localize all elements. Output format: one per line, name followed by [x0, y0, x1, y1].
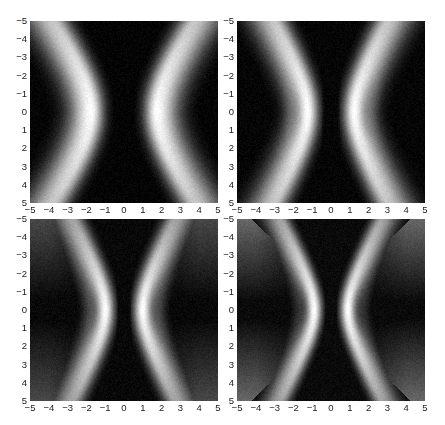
y-tick-label: −2	[7, 269, 27, 279]
x-tick-label: −5	[22, 403, 38, 413]
x-tick-label: −3	[267, 403, 283, 413]
x-tick-label: 5	[417, 403, 433, 413]
y-tick-label: 0	[7, 107, 27, 117]
x-tick-label: −2	[285, 403, 301, 413]
y-tick-label: −4	[7, 232, 27, 242]
y-tick-label: 3	[214, 162, 234, 172]
x-tick-label: −2	[285, 205, 301, 215]
y-tick-label: 1	[7, 323, 27, 333]
y-tick-label: −1	[214, 287, 234, 297]
x-tick-label: 2	[154, 403, 170, 413]
y-tick-label: 3	[214, 360, 234, 370]
x-tick-label: 5	[417, 205, 433, 215]
y-tick-label: −3	[214, 52, 234, 62]
x-tick-label: 3	[379, 403, 395, 413]
y-tick-label: 1	[214, 323, 234, 333]
y-tick-label: −4	[7, 34, 27, 44]
x-tick-label: 3	[172, 403, 188, 413]
y-tick-label: −2	[214, 269, 234, 279]
y-tick-label: 2	[214, 341, 234, 351]
x-tick-label: 2	[361, 205, 377, 215]
x-tick-label: −4	[41, 205, 57, 215]
x-tick-label: −4	[248, 205, 264, 215]
x-tick-label: 0	[323, 205, 339, 215]
x-tick-label: −2	[78, 403, 94, 413]
y-tick-label: −3	[7, 250, 27, 260]
y-tick-label: 4	[214, 378, 234, 388]
x-tick-label: −2	[78, 205, 94, 215]
x-tick-label: 1	[135, 205, 151, 215]
x-tick-label: −3	[267, 205, 283, 215]
x-tick-label: 1	[135, 403, 151, 413]
y-tick-label: 1	[214, 125, 234, 135]
x-tick-label: 2	[361, 403, 377, 413]
x-tick-label: 1	[342, 403, 358, 413]
y-tick-label: −1	[7, 89, 27, 99]
y-tick-label: 2	[7, 143, 27, 153]
y-tick-label: 3	[7, 360, 27, 370]
x-tick-label: −1	[97, 403, 113, 413]
y-tick-label: 1	[7, 125, 27, 135]
x-tick-label: −5	[229, 403, 245, 413]
y-tick-label: 4	[214, 180, 234, 190]
y-tick-label: 2	[214, 143, 234, 153]
y-tick-label: 3	[7, 162, 27, 172]
y-tick-label: 2	[7, 341, 27, 351]
y-tick-label: −3	[7, 52, 27, 62]
x-tick-label: 4	[398, 403, 414, 413]
heatmap-image	[237, 21, 425, 203]
y-tick-label: 0	[214, 107, 234, 117]
y-tick-label: −2	[7, 71, 27, 81]
y-tick-label: −5	[7, 16, 27, 26]
x-tick-label: 0	[116, 205, 132, 215]
x-tick-label: 1	[342, 205, 358, 215]
y-tick-label: −1	[214, 89, 234, 99]
y-tick-label: −5	[214, 214, 234, 224]
y-tick-label: −4	[214, 232, 234, 242]
heatmap-image	[237, 219, 425, 401]
y-tick-label: 0	[214, 305, 234, 315]
y-tick-label: −1	[7, 287, 27, 297]
y-tick-label: −5	[214, 16, 234, 26]
x-tick-label: −4	[41, 403, 57, 413]
x-tick-label: −1	[97, 205, 113, 215]
y-tick-label: 4	[7, 378, 27, 388]
y-tick-label: −2	[214, 71, 234, 81]
x-tick-label: 3	[379, 205, 395, 215]
x-tick-label: −3	[60, 403, 76, 413]
heatmap-image	[30, 21, 218, 203]
x-tick-label: 4	[398, 205, 414, 215]
y-tick-label: −3	[214, 250, 234, 260]
x-tick-label: 3	[172, 205, 188, 215]
y-tick-label: −4	[214, 34, 234, 44]
y-tick-label: 0	[7, 305, 27, 315]
heatmap-image	[30, 219, 218, 401]
x-tick-label: 4	[191, 403, 207, 413]
y-tick-label: 4	[7, 180, 27, 190]
x-tick-label: −3	[60, 205, 76, 215]
x-tick-label: −4	[248, 403, 264, 413]
x-tick-label: −1	[304, 403, 320, 413]
x-tick-label: 0	[323, 403, 339, 413]
y-tick-label: −5	[7, 214, 27, 224]
x-tick-label: 0	[116, 403, 132, 413]
x-tick-label: 2	[154, 205, 170, 215]
x-tick-label: 4	[191, 205, 207, 215]
x-tick-label: −1	[304, 205, 320, 215]
